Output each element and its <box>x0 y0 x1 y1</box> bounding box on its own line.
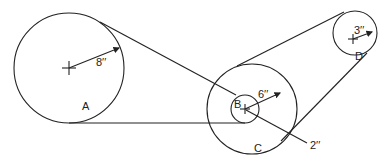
dim-label-d: 3′′ <box>354 24 364 36</box>
label-b: B <box>234 98 241 110</box>
dim-label-b: 2′′ <box>310 139 320 151</box>
label-d: D <box>355 50 363 62</box>
belt-c-d-top <box>237 12 344 66</box>
label-a: A <box>82 100 90 112</box>
label-c: C <box>254 142 262 154</box>
radius-arrow-a <box>69 48 119 68</box>
dim-label-a: 8′′ <box>96 56 106 68</box>
belt-pulley-diagram: 8′′ A B 6′′ C 2′′ 3′′ D <box>0 0 386 159</box>
dim-label-c: 6′′ <box>258 88 268 100</box>
pulley-c <box>207 64 297 154</box>
leader-b <box>246 110 307 143</box>
belt-a-b-top <box>100 22 236 95</box>
belt-c-d-bottom <box>281 53 367 141</box>
